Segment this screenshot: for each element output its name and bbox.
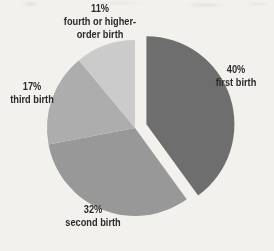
slice-percent: 32% [51, 203, 135, 216]
slice-name-line: order birth [58, 28, 142, 41]
slice-percent: 40% [204, 63, 268, 76]
slice-name-line: fourth or higher- [58, 15, 142, 28]
label-third-birth: 17% third birth [3, 80, 60, 106]
pie-chart-figure: 11% fourth or higher- order birth 40% fi… [0, 0, 274, 251]
label-first-birth: 40% first birth [204, 63, 268, 89]
slice-percent: 11% [58, 2, 142, 15]
slice-name-line: second birth [51, 216, 135, 229]
slice-name-line: first birth [204, 76, 268, 89]
slice-name-line: third birth [3, 93, 60, 106]
label-fourth-or-higher-order-birth: 11% fourth or higher- order birth [58, 2, 142, 41]
slice-percent: 17% [3, 80, 60, 93]
label-second-birth: 32% second birth [51, 203, 135, 229]
